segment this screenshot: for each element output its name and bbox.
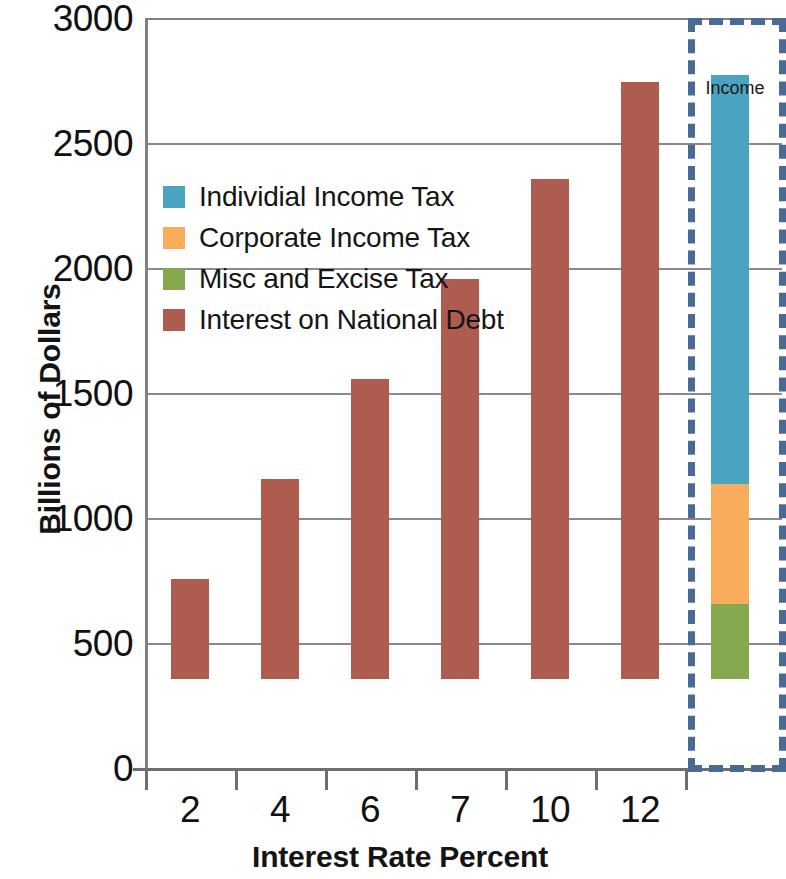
- bar-segment: [531, 179, 569, 679]
- x-axis-tick-label: 7: [415, 790, 505, 831]
- bar: [531, 179, 569, 679]
- legend-swatch-icon: [163, 268, 185, 290]
- legend-item-label: Misc and Excise Tax: [199, 265, 448, 293]
- bar-segment: [351, 379, 389, 679]
- legend-item: Corporate Income Tax: [163, 217, 503, 258]
- x-axis-tick-label: 10: [505, 790, 595, 831]
- x-axis-tick-mark: [235, 768, 238, 790]
- bar-segment: [621, 82, 659, 680]
- bar: [261, 479, 299, 679]
- x-axis-tick-label: 4: [235, 790, 325, 831]
- x-axis-tick-mark: [145, 768, 148, 790]
- legend-item: Individial Income Tax: [163, 176, 503, 217]
- legend-swatch-icon: [163, 309, 185, 331]
- x-axis-tick-mark: [595, 768, 598, 790]
- legend-swatch-icon: [163, 186, 185, 208]
- x-axis-title: Interest Rate Percent: [120, 840, 680, 874]
- chart-legend: Individial Income TaxCorporate Income Ta…: [163, 176, 503, 340]
- x-axis-tick-mark: [325, 768, 328, 790]
- income-callout-label: Income: [688, 78, 782, 99]
- x-axis-tick-mark: [505, 768, 508, 790]
- legend-item: Misc and Excise Tax: [163, 258, 503, 299]
- income-callout-box: [688, 18, 786, 772]
- bar: [351, 379, 389, 679]
- bars-layer: [0, 0, 782, 790]
- bar-segment: [261, 479, 299, 679]
- legend-item-label: Individial Income Tax: [199, 183, 454, 211]
- legend-item-label: Interest on National Debt: [199, 306, 504, 334]
- x-axis-tick-label: 12: [595, 790, 685, 831]
- legend-swatch-icon: [163, 227, 185, 249]
- legend-item: Interest on National Debt: [163, 299, 503, 340]
- bar: [621, 82, 659, 680]
- x-axis-tick-label: 6: [325, 790, 415, 831]
- x-axis-tick-label: 2: [145, 790, 235, 831]
- bar: [171, 579, 209, 679]
- legend-item-label: Corporate Income Tax: [199, 224, 470, 252]
- bar-segment: [171, 579, 209, 679]
- x-axis-tick-mark: [415, 768, 418, 790]
